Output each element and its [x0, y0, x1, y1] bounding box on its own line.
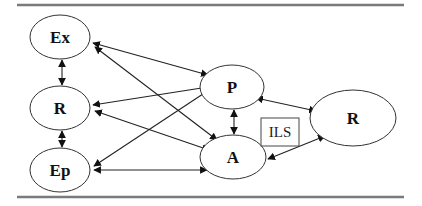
- ils-box-label: ILS: [269, 124, 292, 140]
- edge-p-rright: [256, 98, 316, 111]
- node-ex-label: Ex: [50, 28, 70, 47]
- node-p: P: [200, 65, 264, 109]
- edges: [62, 43, 325, 170]
- node-r-left: R: [30, 86, 90, 130]
- node-ep-label: Ep: [50, 161, 71, 180]
- node-ep: Ep: [30, 148, 90, 192]
- diagram-canvas: Ex R Ep P A R ILS: [0, 0, 422, 206]
- node-r-left-label: R: [54, 99, 67, 118]
- ils-box: ILS: [261, 118, 299, 146]
- edge-r-a: [95, 111, 209, 150]
- node-p-label: P: [227, 78, 237, 97]
- node-r-right-label: R: [347, 109, 360, 128]
- node-ex: Ex: [30, 15, 90, 59]
- edge-ep-p: [94, 90, 209, 166]
- node-r-right: R: [310, 90, 396, 146]
- node-a: A: [200, 135, 266, 179]
- node-a-label: A: [227, 148, 240, 167]
